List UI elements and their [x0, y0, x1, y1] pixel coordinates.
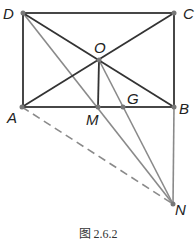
label-N: N [175, 201, 186, 218]
segment-BN [173, 107, 174, 204]
point-O [97, 58, 102, 63]
label-M: M [86, 111, 99, 128]
segment-ON [99, 60, 173, 204]
geometry-figure: D C O A B M G N 图 2.6.2 [0, 0, 196, 242]
point-D [21, 11, 26, 16]
label-B: B [179, 100, 189, 117]
label-G: G [127, 90, 139, 107]
segment-OM [98, 60, 99, 107]
label-A: A [6, 109, 17, 126]
label-C: C [183, 5, 194, 22]
figure-caption: 图 2.6.2 [79, 227, 118, 241]
label-D: D [3, 5, 14, 22]
point-G [121, 105, 126, 110]
point-M [96, 105, 101, 110]
label-O: O [94, 39, 106, 56]
point-C [172, 11, 177, 16]
point-A [20, 105, 25, 110]
point-B [172, 105, 177, 110]
